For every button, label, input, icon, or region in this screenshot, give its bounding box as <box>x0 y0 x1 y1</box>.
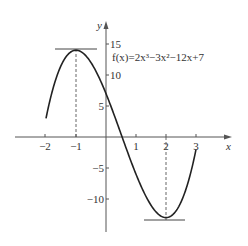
y-tick-label: 5 <box>99 100 105 112</box>
function-label: f(x)=2x³−3x²−12x+7 <box>112 51 204 64</box>
y-axis-arrow-icon <box>104 21 109 29</box>
y-tick-label: −10 <box>87 193 105 205</box>
x-axis-arrow-icon <box>224 135 232 140</box>
x-tick-label: −1 <box>70 140 82 152</box>
function-curve <box>46 50 196 217</box>
y-tick-label: 10 <box>110 69 122 81</box>
function-plot: x y −2 −1 1 2 3 15 10 5 −5 −10 f(x)=2x³−… <box>0 0 248 246</box>
x-tick-label: −2 <box>39 140 51 152</box>
x-tick-label: 2 <box>163 140 169 152</box>
y-axis-label: y <box>96 19 102 31</box>
x-axis-label: x <box>225 140 231 152</box>
y-tick-label: −5 <box>92 162 104 174</box>
x-tick-labels: −2 −1 1 2 3 <box>39 140 199 152</box>
x-tick-label: 1 <box>133 140 139 152</box>
y-tick-label: 15 <box>110 38 122 50</box>
